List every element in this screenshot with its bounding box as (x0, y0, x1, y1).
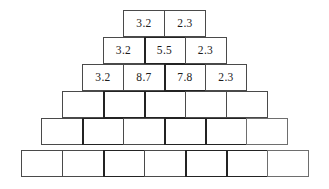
pyramid-cell-value: 7.8 (177, 72, 192, 84)
pyramid-cell[interactable] (62, 91, 104, 118)
pyramid-cell-value: 8.7 (136, 72, 151, 84)
pyramid-cell[interactable] (226, 91, 268, 118)
pyramid-cell[interactable]: 2.3 (185, 37, 227, 64)
pyramid-cell-value: 3.2 (95, 72, 110, 84)
pyramid-cell[interactable] (144, 150, 186, 177)
pyramid-cell-value: 3.2 (136, 18, 151, 30)
pyramid-cell[interactable] (185, 91, 227, 118)
pyramid-cell[interactable]: 7.8 (164, 64, 206, 91)
pyramid-cell[interactable]: 2.3 (205, 64, 247, 91)
pyramid-row-4 (0, 91, 329, 118)
pyramid-cell-value: 2.3 (177, 18, 192, 30)
pyramid-row-6 (0, 150, 329, 177)
pyramid-row-2: 3.2 5.5 2.3 (0, 37, 329, 64)
pyramid-cell-value: 2.3 (198, 45, 213, 57)
pyramid-row-5 (0, 118, 329, 145)
pyramid-cell[interactable] (205, 118, 247, 145)
pyramid-cell-value: 3.2 (116, 45, 131, 57)
pyramid-cell-value: 5.5 (157, 45, 172, 57)
pyramid-cell[interactable]: 8.7 (123, 64, 165, 91)
pyramid-cell[interactable] (164, 118, 206, 145)
pyramid-cell[interactable] (82, 118, 124, 145)
pyramid-cell[interactable]: 5.5 (144, 37, 186, 64)
pyramid-cell[interactable] (185, 150, 227, 177)
pyramid-cell[interactable] (41, 118, 83, 145)
pyramid-cell[interactable] (246, 118, 288, 145)
pyramid-cell[interactable]: 2.3 (164, 10, 206, 37)
pyramid-cell[interactable] (103, 91, 145, 118)
pyramid-cell[interactable] (123, 118, 165, 145)
pyramid-cell[interactable] (62, 150, 104, 177)
pyramid-cell[interactable] (21, 150, 63, 177)
pyramid-cell[interactable] (144, 91, 186, 118)
pyramid-cell[interactable]: 3.2 (82, 64, 124, 91)
pyramid-row-1: 3.2 2.3 (0, 10, 329, 37)
pyramid-cell[interactable] (226, 150, 268, 177)
number-pyramid-figure: 3.2 2.3 3.2 5.5 2.3 3.2 8.7 7.8 2.3 (0, 0, 329, 189)
pyramid-cell[interactable] (103, 150, 145, 177)
pyramid-cell[interactable]: 3.2 (123, 10, 165, 37)
pyramid-cell-value: 2.3 (218, 72, 233, 84)
pyramid-cell[interactable]: 3.2 (103, 37, 145, 64)
pyramid-row-3: 3.2 8.7 7.8 2.3 (0, 64, 329, 91)
pyramid-cell[interactable] (267, 150, 309, 177)
